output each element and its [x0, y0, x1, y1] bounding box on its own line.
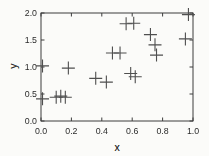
- x-tick-label: 0.8: [156, 126, 168, 136]
- data-point-marker: [36, 92, 49, 105]
- data-point-marker: [62, 62, 75, 75]
- data-point-marker: [114, 46, 127, 59]
- y-tick-label: 0.5: [25, 89, 37, 99]
- data-point-marker: [150, 49, 163, 62]
- x-tick-label: 0.2: [65, 126, 77, 136]
- scatter-plot-figure: 0.00.20.40.60.81.00.00.51.01.52.0 x y: [0, 0, 209, 156]
- x-tick-label: 0.0: [35, 126, 47, 136]
- y-tick-label: 2.0: [25, 8, 37, 18]
- x-axis-label: x: [41, 142, 193, 152]
- axis-ticks: [41, 13, 193, 121]
- x-tick-label: 0.4: [96, 126, 108, 136]
- scatter-plot-canvas: 0.00.20.40.60.81.00.00.51.01.52.0: [0, 0, 209, 156]
- y-tick-label: 0.0: [25, 116, 37, 126]
- data-point-marker: [179, 32, 192, 45]
- y-axis-label: y: [8, 60, 18, 72]
- plot-frame: [41, 13, 193, 121]
- data-point-marker: [89, 72, 102, 85]
- y-tick-label: 1.0: [25, 62, 37, 72]
- data-point-marker: [36, 59, 49, 72]
- x-tick-label: 0.6: [126, 126, 138, 136]
- data-point-marker: [100, 76, 113, 89]
- x-tick-label: 1.0: [187, 126, 199, 136]
- data-point-marker: [127, 17, 140, 30]
- y-tick-label: 1.5: [25, 35, 37, 45]
